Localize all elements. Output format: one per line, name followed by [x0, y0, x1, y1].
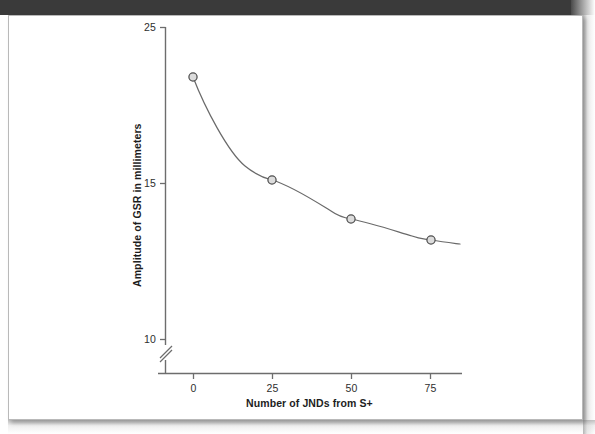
scan-top-band-fade: [571, 0, 595, 15]
scan-top-band: [0, 0, 571, 15]
scanned-page: [8, 15, 583, 420]
page-bottom-shadow: [8, 420, 595, 434]
figure-screenshot: 25 15 10 0 25 50 75 Amplitude of GSR in …: [0, 0, 595, 434]
page-right-shadow: [583, 15, 595, 434]
